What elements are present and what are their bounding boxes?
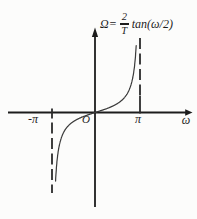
fraction-numerator: 2 xyxy=(122,12,127,23)
Omega-axis-arrow-icon xyxy=(92,28,98,38)
formula-lhs: Ω= xyxy=(100,18,117,30)
tick-label-pi: π xyxy=(135,112,142,126)
bilinear-warping-figure: -ππOω Ω= 2 T tan(ω/2) xyxy=(0,0,197,219)
formula-fraction: 2 T xyxy=(120,12,129,36)
formula-rhs: tan(ω/2) xyxy=(132,18,173,30)
omega-axis-label: ω xyxy=(182,113,190,127)
formula-label: Ω= 2 T tan(ω/2) xyxy=(100,10,173,38)
fraction-denominator: T xyxy=(121,26,127,37)
origin-label: O xyxy=(82,113,90,125)
tick-label-minus-pi: -π xyxy=(28,112,39,126)
